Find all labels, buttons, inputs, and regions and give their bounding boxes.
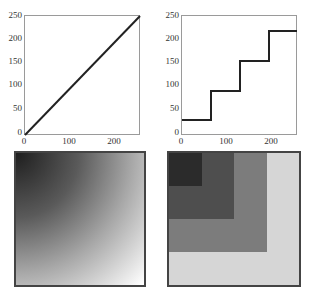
y-tick-label: 250 <box>0 11 22 20</box>
y-tick-label: 100 <box>157 80 179 89</box>
y-tick-label: 100 <box>0 80 22 89</box>
x-tick-label: 100 <box>57 137 81 146</box>
y-tick-label: 250 <box>157 11 179 20</box>
y-tick-label: 200 <box>0 34 22 43</box>
identity-plot-axes <box>24 15 140 135</box>
y-tick-label: 150 <box>157 57 179 66</box>
identity-plot: 250 200 150 100 50 0 0 100 200 <box>0 0 156 150</box>
identity-line <box>25 16 141 136</box>
x-tick-label: 200 <box>259 137 283 146</box>
gradient-image <box>14 151 146 287</box>
x-tick-label: 100 <box>214 137 238 146</box>
y-tick-label: 50 <box>157 104 179 113</box>
step-plot: 250 200 150 100 50 0 0 100 200 <box>157 0 312 150</box>
y-tick-label: 50 <box>0 104 22 113</box>
step-line <box>182 16 298 136</box>
step-plot-axes <box>181 15 297 135</box>
x-tick-label: 0 <box>12 137 36 146</box>
x-tick-label: 200 <box>102 137 126 146</box>
quantized-level-1 <box>169 153 202 186</box>
y-tick-label: 200 <box>157 34 179 43</box>
gradient-fill <box>16 153 144 285</box>
y-tick-label: 0 <box>0 128 22 137</box>
x-tick-label: 0 <box>169 137 193 146</box>
y-tick-label: 0 <box>157 128 179 137</box>
quantized-image <box>167 151 301 287</box>
y-tick-label: 150 <box>0 57 22 66</box>
